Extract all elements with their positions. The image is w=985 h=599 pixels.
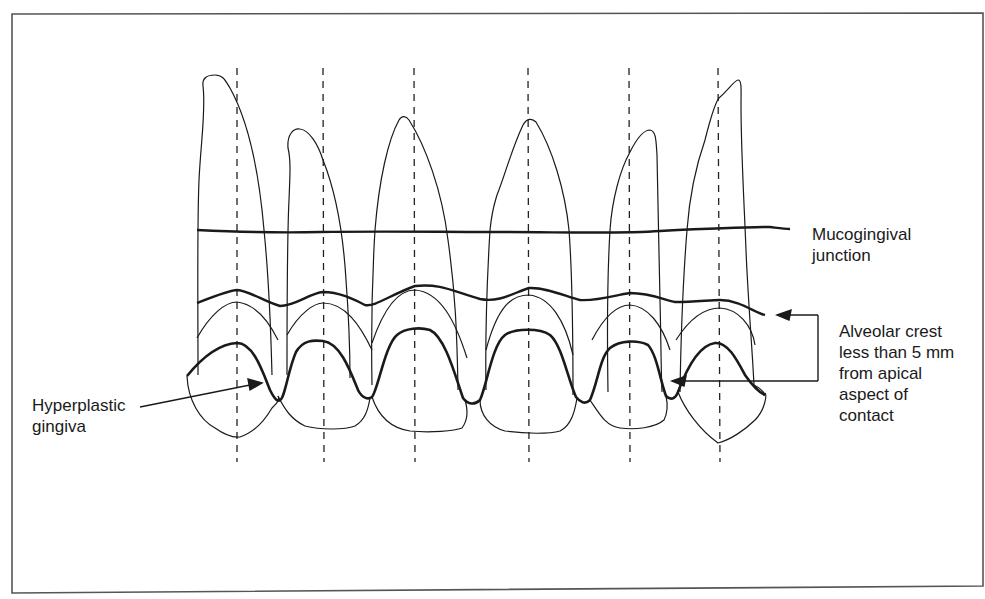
hyperplastic-arrow bbox=[140, 379, 262, 407]
label-line: Mucogingival bbox=[812, 224, 911, 245]
label-line: gingiva bbox=[32, 416, 126, 437]
figure-frame bbox=[12, 13, 983, 593]
alveolar-crest-label: Alveolar crest less than 5 mm from apica… bbox=[839, 321, 954, 426]
label-line: junction bbox=[812, 245, 911, 266]
mucogingival-junction-line bbox=[197, 227, 790, 233]
mucogingival-junction-label: Mucogingival junction bbox=[812, 224, 911, 266]
label-line: aspect of bbox=[839, 384, 954, 405]
tooth-roots bbox=[198, 75, 754, 395]
label-line: less than 5 mm bbox=[839, 342, 954, 363]
alveolar-crest-line bbox=[197, 285, 765, 315]
label-line: from apical bbox=[839, 363, 954, 384]
diagram-canvas bbox=[0, 0, 985, 599]
label-line: Alveolar crest bbox=[839, 321, 954, 342]
label-line: Hyperplastic bbox=[32, 395, 126, 416]
hyperplastic-gingiva-label: Hyperplastic gingiva bbox=[32, 395, 126, 437]
label-line: contact bbox=[839, 405, 954, 426]
